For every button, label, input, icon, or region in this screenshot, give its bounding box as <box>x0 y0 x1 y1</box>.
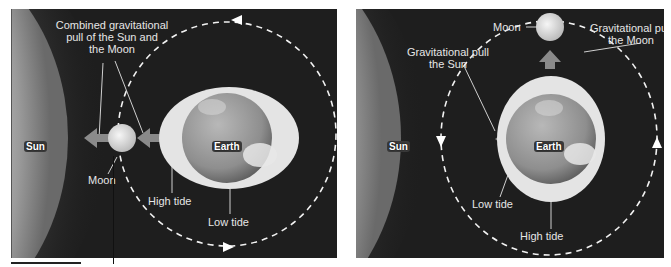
pointer-line <box>115 61 143 133</box>
orbit-direction-arrow-left <box>436 136 446 147</box>
pointer-line <box>464 66 495 131</box>
footnote-rule <box>11 262 81 264</box>
moon-label: Moon <box>493 21 521 33</box>
earth-land <box>535 100 563 116</box>
divider-line <box>113 156 114 264</box>
earth-land <box>198 99 226 115</box>
earth-cloud <box>564 143 596 165</box>
moon-label: Moon <box>88 174 116 186</box>
earth-icon <box>182 93 272 183</box>
moon-pull-arrow-icon <box>539 50 561 69</box>
orbit-direction-arrow-top <box>231 15 242 25</box>
orbit-direction-arrow-right <box>652 137 662 148</box>
low-tide-label: Low tide <box>472 198 513 210</box>
neap-tide-panel: Sun Earth Moon Gravitational pull the Su… <box>356 9 664 258</box>
earth-label: Earth <box>534 141 564 152</box>
low-tide-label: Low tide <box>208 216 249 228</box>
pull-arrow-icon <box>137 128 160 148</box>
sun-label: Sun <box>24 141 47 152</box>
earth-label: Earth <box>212 141 242 152</box>
orbit-direction-arrow-bottom <box>223 242 234 252</box>
spring-tide-panel: Sun Earth Combined gravitational pull of… <box>11 9 337 258</box>
high-tide-label: High tide <box>148 195 191 207</box>
earth-cloud <box>243 143 277 167</box>
moon-icon <box>536 13 564 41</box>
sun-pull-label: Gravitational pull the Sun <box>394 46 502 70</box>
combined-pull-label: Combined gravitational pull of the Sun a… <box>52 19 172 55</box>
sun-label: Sun <box>387 141 410 152</box>
high-tide-label: High tide <box>520 230 563 242</box>
moon-pull-label: Gravitational pull the Moon <box>581 22 664 46</box>
moon-icon <box>108 124 136 152</box>
